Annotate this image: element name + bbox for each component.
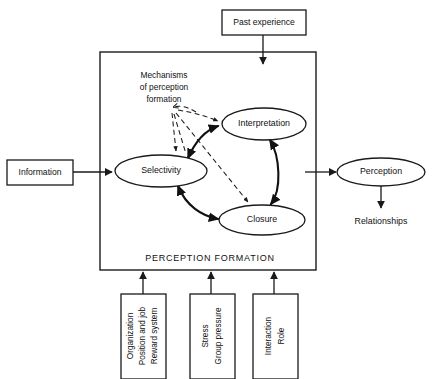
relationships-label: Relationships <box>355 216 408 226</box>
mechanisms-annotation-line2: of perception <box>140 82 189 92</box>
mechanisms-annotation-line1: Mechanisms <box>140 70 187 80</box>
perception-formation-diagram: PERCEPTION FORMATION Past experience Inf… <box>0 0 433 379</box>
stress-line2: Group pressure <box>214 307 223 364</box>
dashed-arrow-to-annotation <box>174 106 196 112</box>
diagram-canvas: PERCEPTION FORMATION Past experience Inf… <box>0 0 433 379</box>
interaction-line1: Interaction <box>264 316 273 355</box>
past-experience-label: Past experience <box>233 17 295 27</box>
organization-line1: Organization <box>126 312 135 359</box>
interpretation-label: Interpretation <box>238 118 290 128</box>
link-selectivity-interpretation <box>188 126 218 158</box>
selectivity-label: Selectivity <box>141 165 181 175</box>
perception-label: Perception <box>360 166 402 176</box>
link-selectivity-closure <box>178 186 218 219</box>
organization-line3: Reward system <box>150 308 159 365</box>
container-caption: PERCEPTION FORMATION <box>145 253 274 263</box>
dashed-arrow-to-interpretation <box>178 110 218 121</box>
mechanisms-annotation-line3: formation <box>147 94 182 104</box>
link-interpretation-closure <box>270 140 278 204</box>
interaction-box <box>253 294 298 379</box>
stress-box <box>190 294 235 379</box>
stress-line1: Stress <box>201 324 210 347</box>
information-label: Information <box>19 167 62 177</box>
interaction-line2: Role <box>277 327 286 344</box>
closure-label: Closure <box>247 214 277 224</box>
organization-line2: Position and job <box>138 306 147 365</box>
